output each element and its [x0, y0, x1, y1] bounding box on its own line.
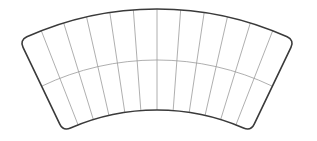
column-divider — [41, 31, 78, 125]
grid-lines — [41, 9, 272, 125]
sector-shape — [0, 0, 317, 141]
curved-grid-diagram — [0, 0, 317, 141]
column-divider — [221, 23, 251, 120]
column-divider — [87, 17, 109, 115]
column-divider — [205, 17, 227, 115]
column-divider — [236, 31, 273, 125]
column-divider — [64, 23, 94, 120]
